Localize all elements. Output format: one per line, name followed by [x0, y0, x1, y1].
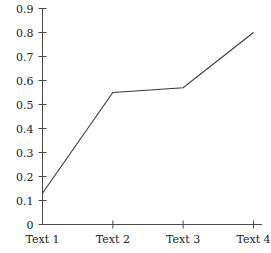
y-axis-tick-label: 0.7: [0, 50, 34, 63]
y-axis-tick-label: 0.9: [0, 2, 34, 15]
line-chart-figure: 00.10.20.30.40.50.60.70.80.9 Text 1Text …: [0, 0, 271, 253]
y-axis-tick-label: 0.6: [0, 74, 34, 87]
y-axis-tick-label: 0: [0, 218, 34, 231]
y-axis-tick-label: 0.5: [0, 98, 34, 111]
y-axis-tick-label: 0.2: [0, 170, 34, 183]
x-axis-tick-label: Text 3: [166, 233, 200, 246]
plot-area: [0, 0, 271, 253]
data-series-line: [43, 33, 254, 194]
y-axis-tick-label: 0.3: [0, 146, 34, 159]
y-axis-tick-label: 0.8: [0, 26, 34, 39]
x-axis-tick-label: Text 2: [96, 233, 130, 246]
x-axis-tick-label: Text 1: [25, 233, 59, 246]
y-axis-tick-label: 0.4: [0, 122, 34, 135]
x-axis-tick-label: Text 4: [236, 233, 270, 246]
y-axis-tick-label: 0.1: [0, 194, 34, 207]
